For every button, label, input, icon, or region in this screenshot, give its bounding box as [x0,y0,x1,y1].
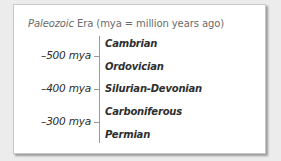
timeline-card: Paleozoic Era (mya = million years ago) … [13,4,266,154]
diagram-title: Paleozoic Era (mya = million years ago) [28,18,224,29]
title-description: Era (mya = million years ago) [74,18,224,29]
tick-mark [94,122,100,123]
period-cambrian: Cambrian [105,38,157,49]
period-silurian-devonian: Silurian-Devonian [105,83,202,94]
tick-mark [94,89,100,90]
tick-mark [94,56,100,57]
marker-label-500: –500 mya [41,49,91,61]
marker-label-300: –300 mya [41,115,91,127]
period-permian: Permian [105,129,150,140]
marker-label-400: –400 mya [41,82,91,94]
period-carboniferous: Carboniferous [105,106,182,117]
title-era-name: Paleozoic [28,18,74,29]
period-ordovician: Ordovician [105,61,164,72]
